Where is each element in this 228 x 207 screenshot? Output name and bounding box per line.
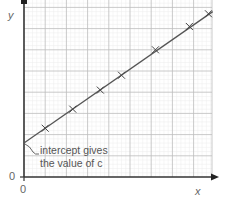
x-axis-arrow-icon: [211, 174, 219, 181]
annotation-line-1: intercept gives: [40, 144, 108, 157]
annotation-line-2: the value of c: [40, 157, 108, 170]
best-fit-line: [24, 12, 213, 143]
chart-canvas: [0, 0, 228, 207]
origin-y-label: 0: [9, 171, 15, 182]
origin-x-label: 0: [20, 184, 26, 195]
intercept-annotation: intercept gives the value of c: [40, 144, 108, 170]
fit-line-segment: [24, 12, 213, 143]
y-axis-arrow-icon: [21, 0, 27, 4]
y-axis-label: y: [8, 10, 14, 21]
x-axis-label: x: [195, 186, 201, 197]
cross-marker-icon: [205, 10, 212, 17]
